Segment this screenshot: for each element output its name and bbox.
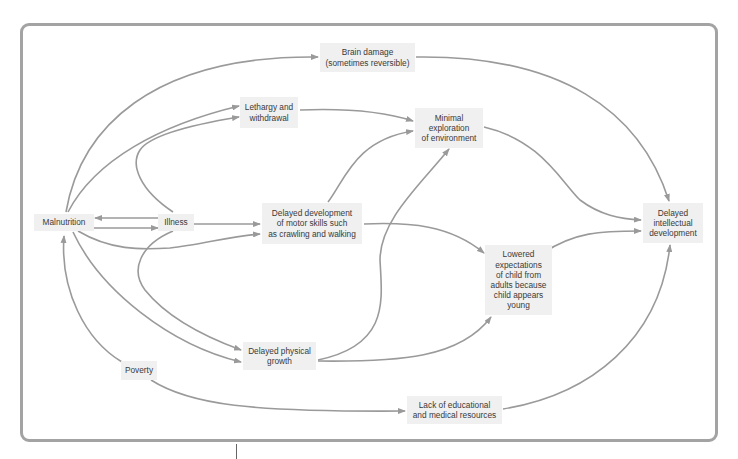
node-label: young: [507, 300, 530, 310]
node-label: Lack of educational: [419, 400, 491, 410]
node-label: Lethargy and: [245, 102, 293, 112]
node-label: Delayed development: [272, 208, 352, 218]
edge-illness-lethargy: [136, 117, 239, 212]
node-malnutrition: Malnutrition: [34, 214, 94, 231]
node-label: Brain damage: [342, 47, 394, 57]
edge-motor-minimal: [328, 131, 413, 202]
node-label: as crawling and walking: [268, 229, 356, 239]
node-brain-damage: Brain damage (sometimes reversible): [320, 43, 415, 72]
node-label: of motor skills such: [277, 218, 348, 228]
node-label: intellectual: [653, 218, 692, 228]
node-label: of child from: [496, 270, 541, 280]
edge-minimal-intellectual: [484, 127, 641, 220]
node-label: Delayed physical: [248, 346, 311, 356]
node-lack-resources: Lack of educational and medical resource…: [407, 396, 502, 424]
node-lethargy: Lethargy and withdrawal: [240, 97, 298, 128]
node-physical-growth: Delayed physical growth: [243, 342, 316, 370]
node-label: Illness: [164, 217, 188, 227]
node-label: adults because: [491, 280, 547, 290]
node-label: Minimal: [435, 113, 464, 123]
edge-malnutrition-brain-damage: [66, 57, 318, 212]
edge-physical-lowered: [318, 317, 491, 361]
node-label: Malnutrition: [43, 217, 86, 227]
edge-poverty-malnutrition: [64, 236, 122, 362]
node-label: Poverty: [125, 365, 153, 375]
node-label: and medical resources: [413, 410, 496, 420]
node-poverty: Poverty: [121, 361, 157, 380]
node-label: child appears: [494, 290, 543, 300]
edge-poverty-lack-resources: [151, 380, 405, 411]
edge-motor-lowered: [364, 224, 484, 253]
node-label: exploration: [429, 123, 470, 133]
edge-lethargy-minimal: [300, 109, 413, 121]
node-motor-skills: Delayed development of motor skills such…: [262, 203, 362, 244]
node-label: Delayed: [658, 208, 688, 218]
node-label: Lowered: [503, 249, 535, 259]
node-label: growth: [267, 356, 292, 366]
node-label: expectations: [495, 260, 542, 270]
edge-physical-minimal: [318, 149, 449, 360]
node-illness: Illness: [158, 214, 194, 231]
node-lowered-expectations: Lowered expectations of child from adult…: [485, 245, 552, 315]
node-label: withdrawal: [249, 113, 288, 123]
node-intellectual: Delayed intellectual development: [643, 203, 703, 243]
node-label: development: [649, 228, 697, 238]
node-minimal-exploration: Minimal exploration of environment: [415, 108, 483, 148]
edge-lowered-intellectual: [543, 231, 641, 253]
node-label: of environment: [422, 133, 477, 143]
node-label: (sometimes reversible): [326, 58, 410, 68]
